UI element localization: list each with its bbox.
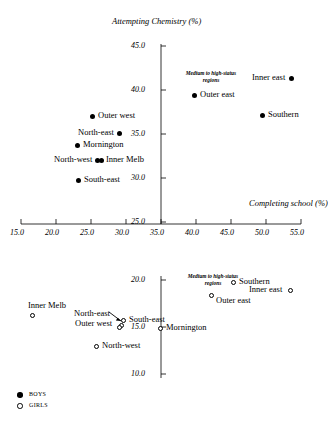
x-tick-45: 45.0 — [220, 229, 234, 237]
data-label-boys-north-west: North-west — [54, 155, 92, 164]
y-tick-bottom-15: 15.0 — [131, 323, 145, 331]
y-tick-bottom-20: 20.0 — [131, 276, 145, 284]
x-axis-title: Completing school (%) — [249, 198, 328, 208]
data-label-boys-mornington: Mornington — [83, 140, 124, 149]
data-label-girls-north-west: North-west — [102, 341, 140, 350]
data-label-girls-inner-east: Inner east — [249, 285, 282, 294]
data-point-girls-southern[interactable] — [231, 280, 236, 285]
data-point-boys-outer-east[interactable] — [192, 93, 197, 98]
x-tick-25: 25.0 — [80, 229, 94, 237]
data-label-girls-mornington: Mornington — [166, 323, 207, 332]
x-tick-20: 20.0 — [45, 229, 59, 237]
data-label-boys-outer-east: Outer east — [200, 90, 235, 99]
data-point-boys-mornington[interactable] — [75, 143, 80, 148]
y-tick-top-45: 45.0 — [131, 42, 145, 50]
legend-marker-girls — [17, 403, 23, 409]
data-label-boys-south-east: South-east — [84, 175, 120, 184]
data-point-boys-inner-melb[interactable] — [99, 158, 104, 163]
data-point-boys-south-east[interactable] — [76, 178, 81, 183]
data-point-girls-outer-west[interactable] — [117, 325, 122, 330]
x-tick-35: 35.0 — [150, 229, 164, 237]
legend-label-girls: GIRLS — [29, 402, 48, 408]
data-label-boys-north-east: North-east — [78, 128, 114, 137]
y-axis-title-text: Attempting Chemistry (%) — [112, 16, 201, 26]
data-point-girls-inner-east[interactable] — [288, 288, 293, 293]
x-tick-30: 30.0 — [115, 229, 129, 237]
y-tick-bottom-10: 10.0 — [131, 370, 145, 378]
data-point-boys-north-east[interactable] — [117, 131, 122, 136]
y-tick-top-40: 40.0 — [131, 86, 145, 94]
data-label-girls-inner-melb: Inner Melb — [28, 301, 66, 310]
data-point-boys-southern[interactable] — [260, 113, 265, 118]
data-point-girls-inner-melb[interactable] — [30, 313, 35, 318]
x-tick-40: 40.0 — [185, 229, 199, 237]
data-label-girls-outer-east: Outer east — [216, 296, 251, 305]
data-point-girls-mornington[interactable] — [158, 326, 163, 331]
x-tick-55: 55.0 — [290, 229, 304, 237]
data-label-boys-inner-melb: Inner Melb — [106, 155, 144, 164]
y-tick-top-35: 35.0 — [131, 130, 145, 138]
data-label-boys-inner-east: Inner east — [252, 73, 285, 82]
data-label-boys-outer-west: Outer west — [98, 111, 135, 120]
data-label-girls-north-east: North-east — [74, 309, 110, 318]
y-axis-title: Attempting Chemistry (%) — [112, 16, 201, 26]
data-label-girls-outer-west: Outer west — [75, 319, 112, 328]
data-point-girls-north-west[interactable] — [94, 344, 99, 349]
data-point-girls-outer-east[interactable] — [209, 293, 214, 298]
y-tick-top-30: 30.0 — [131, 174, 145, 182]
x-tick-50: 50.0 — [255, 229, 269, 237]
legend-label-boys: BOYS — [29, 391, 46, 397]
data-label-girls-south-east: South-east — [129, 315, 165, 324]
data-point-boys-outer-west[interactable] — [90, 114, 95, 119]
y-tick-top-25: 25.0 — [131, 218, 145, 226]
x-tick-15: 15.0 — [10, 229, 24, 237]
data-label-boys-southern: Southern — [268, 110, 299, 119]
annotation-medium-high-status-top: Medium to high-status regions — [182, 70, 240, 84]
legend-marker-boys — [17, 392, 23, 398]
data-point-boys-inner-east[interactable] — [289, 76, 294, 81]
x-axis-title-text: Completing school (%) — [249, 198, 328, 208]
